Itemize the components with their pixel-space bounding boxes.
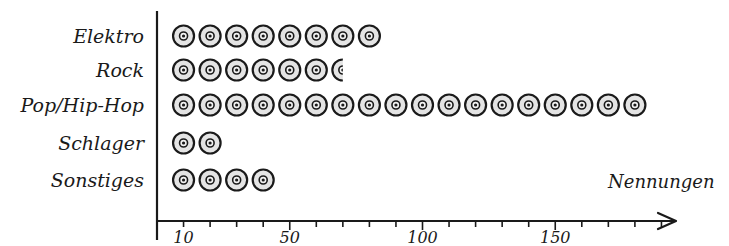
cd-disc-icon [253, 170, 274, 191]
cd-disc-icon [173, 170, 194, 191]
pictogram-row [173, 60, 353, 81]
cd-disc-icon [518, 95, 539, 116]
cd-disc-icon [253, 60, 274, 81]
cd-disc-icon [624, 95, 645, 116]
cd-disc-icon [465, 95, 486, 116]
cd-disc-icon [598, 95, 619, 116]
cd-disc-icon [439, 95, 460, 116]
category-label: Schlager [58, 132, 146, 154]
cd-disc-icon [306, 26, 327, 47]
cd-disc-icon [253, 26, 274, 47]
cd-disc-icon [200, 133, 221, 154]
category-label: Elektro [72, 25, 144, 47]
cd-disc-icon [385, 95, 406, 116]
cd-disc-icon [226, 60, 247, 81]
cd-disc-icon [412, 95, 433, 116]
x-axis: 1050100150 [157, 213, 676, 246]
x-tick-label: 10 [173, 228, 193, 246]
cd-disc-icon [200, 60, 221, 81]
cd-disc-icon [226, 26, 247, 47]
pictogram-row [173, 95, 645, 116]
cd-disc-icon [279, 26, 300, 47]
cd-disc-icon [200, 170, 221, 191]
pictogram-row [173, 170, 274, 191]
pictogram-row [173, 133, 221, 154]
category-label: Sonstiges [51, 169, 145, 191]
cd-disc-icon [359, 95, 380, 116]
cd-disc-icon [200, 26, 221, 47]
cd-disc-icon [226, 95, 247, 116]
pictogram-row [173, 26, 380, 47]
cd-disc-icon [359, 26, 380, 47]
cd-disc-icon [253, 95, 274, 116]
cd-disc-icon [226, 170, 247, 191]
cd-disc-icon [306, 60, 327, 81]
category-label: Pop/Hip-Hop [20, 94, 144, 116]
x-tick-label: 50 [280, 228, 300, 246]
pictogram-chart: 1050100150 ElektroRockPop/Hip-HopSchlage… [0, 0, 729, 246]
cd-disc-icon [492, 95, 513, 116]
category-labels: ElektroRockPop/Hip-HopSchlagerSonstiges [20, 25, 146, 191]
cd-disc-partial-icon [332, 60, 353, 81]
cd-disc-icon [306, 95, 327, 116]
cd-disc-icon [279, 60, 300, 81]
x-tick-label: 150 [540, 228, 571, 246]
cd-disc-icon [200, 95, 221, 116]
cd-disc-icon [279, 95, 300, 116]
x-axis-title: Nennungen [607, 171, 715, 192]
cd-disc-icon [173, 26, 194, 47]
cd-disc-icon [332, 95, 353, 116]
cd-disc-icon [173, 133, 194, 154]
category-label: Rock [95, 59, 144, 81]
cd-disc-icon [545, 95, 566, 116]
cd-disc-icon [173, 95, 194, 116]
cd-disc-icon [332, 26, 353, 47]
cd-disc-icon [173, 60, 194, 81]
pictogram-rows [173, 26, 645, 191]
x-tick-label: 100 [407, 228, 438, 246]
cd-disc-icon [571, 95, 592, 116]
